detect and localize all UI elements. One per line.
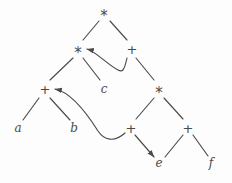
- dag-node-n9: +: [183, 122, 194, 135]
- dag-node-n11: f: [209, 157, 213, 169]
- dag-node-n2: +: [127, 43, 138, 56]
- expression-dag-figure: **++c*ab++ef: [0, 0, 232, 183]
- dag-edge: [55, 89, 125, 139]
- dag-edge: [164, 98, 183, 119]
- dag-edge: [83, 58, 100, 80]
- dag-edge: [136, 58, 154, 80]
- dag-node-n5: *: [155, 86, 163, 101]
- dag-edge: [23, 98, 39, 120]
- dag-edge: [110, 21, 127, 40]
- dag-node-n7: b: [70, 122, 78, 134]
- dag-edge: [136, 98, 154, 119]
- dag-edge: [83, 21, 99, 40]
- dag-node-n10: e: [155, 157, 162, 169]
- dag-edge: [193, 135, 208, 156]
- dag-edge: [135, 135, 154, 157]
- dag-edge: [50, 98, 70, 120]
- dag-edge: [50, 58, 73, 80]
- dag-node-n6: a: [14, 122, 21, 134]
- edge-group: [23, 21, 208, 157]
- dag-edges-canvas: [0, 0, 232, 183]
- dag-node-n3: +: [40, 83, 51, 96]
- dag-node-n0: *: [100, 9, 108, 24]
- dag-edge: [87, 49, 127, 71]
- dag-node-n8: +: [126, 122, 137, 135]
- dag-edge: [165, 135, 183, 157]
- dag-node-n4: c: [101, 83, 108, 95]
- dag-node-n1: *: [74, 46, 82, 61]
